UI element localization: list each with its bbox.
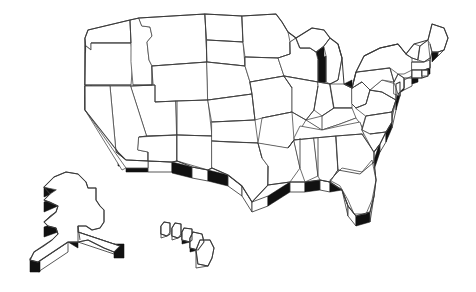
hawaii-inset-group — [161, 222, 214, 268]
state-rhodeisland — [422, 70, 428, 76]
extrusion-wall-arizona-south — [148, 161, 172, 172]
extrusion-wall-louisiana-delta — [290, 182, 305, 192]
state-oklahoma — [212, 120, 258, 143]
us-map-figure: Black and white line drawing of a three … — [0, 0, 476, 292]
us-map-svg: Black and white line drawing of a three … — [0, 0, 476, 292]
state-montana — [139, 14, 207, 66]
state-northdakota — [205, 14, 243, 42]
state-wyoming — [152, 62, 208, 102]
state-connecticut — [412, 70, 422, 78]
state-southdakota — [207, 40, 245, 66]
extrusion-wall-michigan-lakemichigan — [318, 56, 326, 86]
state-michigan — [324, 38, 342, 84]
state-oregon — [85, 43, 133, 85]
state-colorado — [176, 100, 212, 136]
alaska-inset-group — [30, 172, 124, 272]
state-minnesota — [242, 14, 290, 58]
extrusion-wall-louisiana-west — [268, 182, 290, 206]
